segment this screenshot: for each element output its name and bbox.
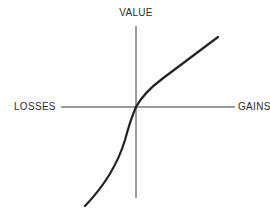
value-curve-losses [85,107,136,206]
value-axis-label: VALUE [117,8,155,18]
value-curve-gains [136,37,218,107]
value-function-diagram: VALUE LOSSES GAINS [0,0,270,215]
gains-axis-label: GAINS [238,102,270,112]
losses-axis-label: LOSSES [14,102,56,112]
